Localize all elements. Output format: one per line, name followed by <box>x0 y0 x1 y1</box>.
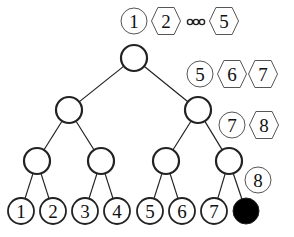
tree-node-l1-left <box>56 97 82 123</box>
leaf-label: 7 <box>209 201 219 222</box>
tree-edge <box>233 173 242 198</box>
annotation-label: 7 <box>258 64 268 85</box>
tree-node-l2-c <box>153 148 179 174</box>
ellipsis-icon <box>187 19 204 24</box>
tree-edge <box>25 173 33 198</box>
leaf-label: 2 <box>48 201 58 222</box>
tree-edge <box>76 121 94 150</box>
annotation-label: 2 <box>161 11 171 32</box>
leaf-label: 6 <box>177 201 187 222</box>
annotation-label: 8 <box>253 170 263 191</box>
leaf-node: 3 <box>72 198 98 224</box>
leaf-node: 7 <box>201 198 227 224</box>
leaf-label: 4 <box>112 201 122 222</box>
tree-node-l2-a <box>24 148 50 174</box>
annotation-label: 1 <box>129 11 139 32</box>
leaf-label: 3 <box>80 201 90 222</box>
tree-edge <box>170 173 178 198</box>
leaf-node <box>233 198 259 224</box>
binary-tree-diagram: 1234567 125567788 <box>0 0 294 237</box>
tree-edge <box>154 173 162 198</box>
tree-node-l1-right <box>185 97 211 123</box>
tree-edge <box>144 66 188 102</box>
tree-edge <box>89 173 97 198</box>
annotation-label: 7 <box>227 115 237 136</box>
leaf-label: 1 <box>16 201 26 222</box>
tree-edge <box>105 173 113 198</box>
tree-edge <box>173 121 191 150</box>
tree-edge <box>44 121 62 150</box>
tree-node-l2-b <box>88 148 114 174</box>
filled-leaf-circle <box>233 198 259 224</box>
tree-leaves: 1234567 <box>8 198 259 224</box>
annotation-label: 5 <box>219 11 229 32</box>
leaf-node: 5 <box>137 198 163 224</box>
annotation-label: 6 <box>227 64 237 85</box>
annotation-row-2: 567 <box>187 61 278 88</box>
annotation-row-1: 125 <box>121 8 239 35</box>
leaf-node: 1 <box>8 198 34 224</box>
leaf-node: 6 <box>169 198 195 224</box>
tree-edges <box>25 66 242 199</box>
leaf-label: 5 <box>145 201 155 222</box>
leaf-node: 4 <box>104 198 130 224</box>
annotation-row-4: 8 <box>245 167 271 193</box>
annotation-label: 8 <box>259 115 269 136</box>
annotation-row-3: 78 <box>219 112 279 139</box>
tree-node-l2-d <box>216 148 242 174</box>
annotation-label: 5 <box>195 64 205 85</box>
leaf-node: 2 <box>40 198 66 224</box>
tree-edge <box>41 173 49 198</box>
tree-node-root <box>121 45 147 71</box>
tree-edge <box>218 173 226 198</box>
tree-edge <box>79 66 124 102</box>
